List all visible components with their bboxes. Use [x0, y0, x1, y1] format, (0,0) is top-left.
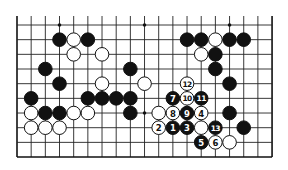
black-stone [53, 33, 67, 47]
stone-disc [95, 48, 109, 62]
black-stone [39, 106, 53, 120]
black-stone [53, 77, 67, 91]
stone-disc [67, 48, 81, 62]
black-stone [209, 62, 223, 76]
move-number: 5 [198, 138, 204, 148]
black-stone [39, 62, 53, 76]
white-stone [67, 106, 81, 120]
move-number: 1 [170, 123, 176, 133]
stone-disc [81, 106, 95, 120]
move-number: 4 [198, 109, 204, 119]
stone-disc [39, 121, 53, 135]
stone-disc [152, 106, 166, 120]
black-stone [81, 92, 95, 106]
stone-disc [223, 106, 237, 120]
black-stone [124, 106, 138, 120]
black-stone: 3 [180, 121, 194, 135]
white-stone [24, 121, 38, 135]
move-number: 11 [197, 94, 207, 103]
stone-disc [180, 33, 194, 47]
white-stone: 10 [180, 92, 194, 106]
stone-disc [24, 106, 38, 120]
stone-disc [223, 33, 237, 47]
stone-disc [24, 121, 38, 135]
star-point [143, 111, 147, 115]
stone-disc [95, 77, 109, 91]
stone-disc [237, 121, 251, 135]
white-stone [95, 77, 109, 91]
star-point [143, 23, 147, 27]
stone-disc [81, 92, 95, 106]
move-number: 10 [182, 94, 192, 103]
stone-disc [194, 33, 208, 47]
move-number: 13 [211, 124, 221, 133]
white-stone [39, 121, 53, 135]
white-stone [194, 48, 208, 62]
stone-disc [124, 62, 138, 76]
black-stone: 1 [166, 121, 180, 135]
white-stone: 6 [209, 136, 223, 150]
black-stone [223, 106, 237, 120]
black-stone [81, 33, 95, 47]
black-stone: 7 [166, 92, 180, 106]
stone-disc [109, 92, 123, 106]
stone-disc [194, 121, 208, 135]
white-stone: 2 [152, 121, 166, 135]
stone-disc [209, 62, 223, 76]
black-stone [223, 77, 237, 91]
white-stone [67, 48, 81, 62]
stone-disc [39, 62, 53, 76]
stone-disc [237, 33, 251, 47]
black-stone [24, 92, 38, 106]
stone-disc [209, 48, 223, 62]
black-stone [209, 48, 223, 62]
stone-disc [194, 48, 208, 62]
white-stone [95, 48, 109, 62]
black-stone [180, 33, 194, 47]
stones-layer: 12710118942131356 [24, 33, 250, 149]
black-stone: 5 [194, 136, 208, 150]
stone-disc [67, 106, 81, 120]
white-stone [152, 106, 166, 120]
white-stone: 8 [166, 106, 180, 120]
stone-disc [209, 33, 223, 47]
black-stone [237, 33, 251, 47]
move-number: 9 [184, 109, 190, 119]
stone-disc [24, 92, 38, 106]
stone-disc [81, 33, 95, 47]
move-number: 8 [170, 109, 176, 119]
black-stone [223, 33, 237, 47]
white-stone [53, 121, 67, 135]
black-stone [124, 62, 138, 76]
stone-disc [53, 121, 67, 135]
white-stone: 12 [180, 77, 194, 91]
stone-disc [95, 92, 109, 106]
white-stone [24, 106, 38, 120]
move-number: 7 [170, 94, 176, 104]
stone-disc [138, 77, 152, 91]
white-stone [223, 136, 237, 150]
black-stone: 11 [194, 92, 208, 106]
stone-disc [223, 77, 237, 91]
stone-disc [124, 106, 138, 120]
black-stone [194, 33, 208, 47]
go-board-diagram: 12710118942131356 [0, 0, 288, 170]
white-stone [194, 121, 208, 135]
stone-disc [53, 33, 67, 47]
black-stone: 13 [209, 121, 223, 135]
black-stone [124, 92, 138, 106]
star-point [58, 23, 62, 27]
white-stone [209, 33, 223, 47]
black-stone [53, 106, 67, 120]
stone-disc [67, 33, 81, 47]
white-stone [67, 33, 81, 47]
white-stone: 4 [194, 106, 208, 120]
move-number: 3 [184, 123, 190, 133]
stone-disc [53, 106, 67, 120]
move-number: 2 [156, 123, 162, 133]
black-stone [95, 92, 109, 106]
stone-disc [53, 77, 67, 91]
black-stone [237, 121, 251, 135]
stone-disc [223, 136, 237, 150]
move-number: 12 [182, 80, 192, 89]
